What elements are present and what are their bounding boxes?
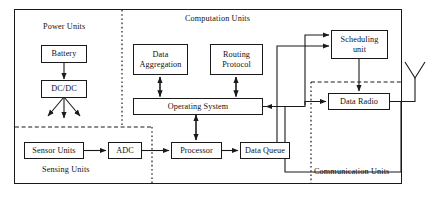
node-data-radio[interactable]: Data Radio (328, 93, 390, 110)
node-processor[interactable]: Processor (171, 142, 222, 159)
arrow-dcdc-out-left (48, 97, 64, 116)
region-label-sensing-units: Sensing Units (42, 165, 90, 174)
diagram-canvas: Power Units Computation Units Sensing Un… (0, 0, 432, 197)
node-battery-label: Battery (51, 49, 78, 58)
node-scheduling-unit[interactable]: Scheduling unit (331, 30, 388, 59)
node-scheduling-unit-label-line1: Scheduling (340, 35, 380, 44)
node-routing-protocol-label-line1: Routing (222, 50, 251, 59)
region-label-computation-units: Computation Units (185, 14, 250, 23)
node-adc[interactable]: ADC (108, 142, 142, 159)
node-data-queue-label: Data Queue (244, 146, 286, 155)
node-data-radio-label: Data Radio (339, 97, 379, 106)
node-operating-system[interactable]: Operating System (133, 98, 263, 115)
arrow-data-radio-return-to-os (266, 102, 401, 173)
node-adc-label: ADC (115, 146, 135, 155)
node-data-queue[interactable]: Data Queue (240, 142, 290, 159)
node-sensor-units-label: Sensor Units (31, 146, 76, 155)
node-data-aggregation[interactable]: Data Aggregation (133, 44, 188, 75)
arrow-bus-to-data-radio (263, 102, 326, 107)
node-processor-label: Processor (179, 146, 214, 155)
node-data-aggregation-label-line2: Aggregation (138, 60, 182, 69)
node-dc-dc-label: DC/DC (50, 84, 78, 93)
antenna-icon (405, 62, 425, 78)
node-scheduling-unit-label-line2: unit (352, 45, 367, 54)
region-label-power-units: Power Units (43, 22, 85, 31)
node-battery[interactable]: Battery (41, 45, 87, 63)
node-data-aggregation-label-line1: Data (152, 50, 170, 59)
node-routing-protocol-label-line2: Protocol (221, 60, 252, 69)
arrow-dcdc-out-right (64, 97, 80, 116)
node-routing-protocol[interactable]: Routing Protocol (210, 44, 263, 75)
node-operating-system-label: Operating System (167, 102, 230, 111)
region-label-communication-units: Communication Units (314, 167, 389, 176)
node-sensor-units[interactable]: Sensor Units (24, 142, 84, 159)
node-dc-dc[interactable]: DC/DC (41, 80, 87, 98)
